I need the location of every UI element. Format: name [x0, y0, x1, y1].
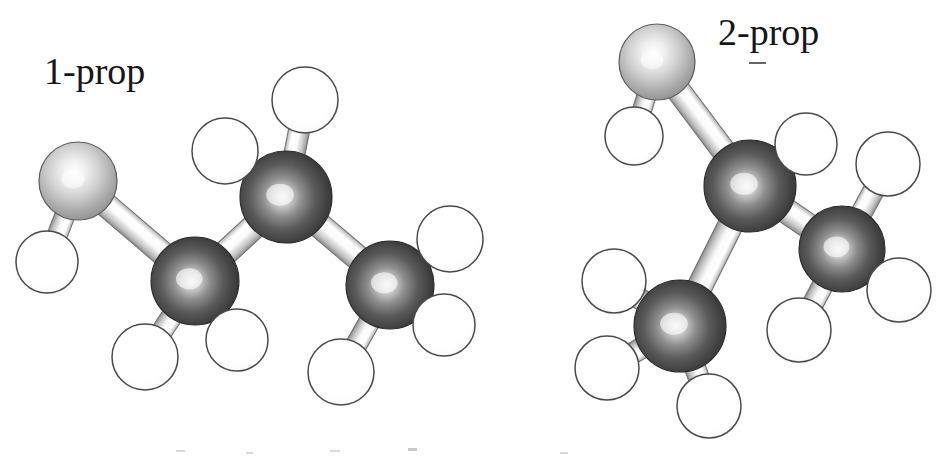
hydrogen-atom-HRb: [867, 258, 931, 322]
hydrogen-atom-HRc: [767, 298, 831, 362]
hydrogen-atom-H1b: [206, 309, 268, 371]
hydrogen-atom-H2c: [775, 113, 837, 175]
specular-highlight: [660, 313, 688, 335]
hydrogen-atom-H3a: [417, 206, 483, 272]
scan-artifact-mark: [560, 452, 568, 454]
specular-highlight: [824, 237, 850, 258]
hydrogen-atom-HO1: [16, 231, 78, 293]
molecule-label-2-prop: 2-prop: [718, 13, 819, 51]
molecular-figure: 1-prop 2-prop: [0, 0, 947, 458]
specular-highlight: [371, 272, 397, 293]
hydrogen-atom-HO2: [605, 107, 663, 165]
molecule-label-1-prop: 1-prop: [44, 52, 145, 90]
hydrogen-atom-H1a: [112, 324, 178, 390]
hydrogen-atom-H2b: [272, 67, 338, 133]
scan-artifact-dash: [749, 62, 766, 64]
oxygen-atom-O1: [39, 142, 117, 220]
hydrogen-atom-H2a: [192, 118, 258, 184]
specular-highlight: [176, 268, 202, 289]
specular-highlight: [730, 173, 758, 195]
hydrogen-atom-H3c: [308, 339, 374, 405]
oxygen-atom-O2: [619, 24, 695, 100]
hydrogen-atom-H3b: [413, 294, 475, 356]
scan-artifact-mark: [330, 450, 340, 452]
specular-highlight: [641, 51, 664, 69]
scan-artifact-mark: [246, 452, 253, 454]
specular-highlight: [266, 184, 294, 206]
hydrogen-atom-HLa: [582, 249, 646, 313]
scan-artifact-mark: [408, 448, 417, 451]
specular-highlight: [61, 170, 84, 189]
scan-artifact-mark: [176, 450, 185, 452]
carbon-atom-CL: [634, 280, 726, 372]
hydrogen-atom-HRa: [856, 132, 920, 196]
hydrogen-atom-HLb: [575, 336, 639, 400]
hydrogen-atom-HLc: [677, 374, 741, 438]
